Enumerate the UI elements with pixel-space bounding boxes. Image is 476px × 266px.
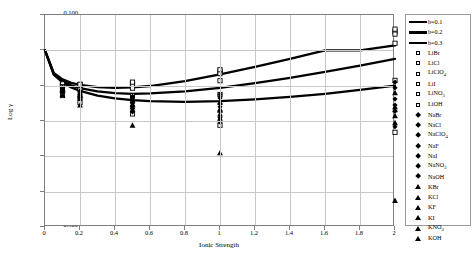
legend-line-swatch: [408, 31, 428, 33]
legend-item-label: KF: [428, 204, 436, 210]
series-LiBr: [60, 30, 397, 87]
legend-item-NaI[interactable]: NaI: [408, 151, 470, 161]
data-point: [393, 32, 397, 36]
legend-triangle-marker-icon: [408, 236, 428, 241]
legend-item-LiBr[interactable]: LiBr: [408, 48, 470, 58]
legend-item-label: NaI: [428, 153, 437, 159]
data-point: [393, 27, 397, 31]
legend-key-shape: [409, 42, 427, 44]
legend-key-shape: [415, 205, 421, 210]
legend-item-LiI[interactable]: LiI: [408, 79, 470, 89]
legend-item-label: KNO3: [428, 224, 444, 233]
legend-square-marker-icon: [408, 61, 428, 65]
legend-square-marker-icon: [408, 51, 428, 55]
legend-key-shape: [416, 72, 420, 76]
legend-key-shape: [415, 236, 421, 241]
x-tick-label: 1.8: [344, 229, 374, 236]
legend-item-label: NaCl: [428, 122, 441, 128]
series-KF: [60, 86, 398, 111]
legend-item-label: LiClO4: [428, 69, 446, 78]
x-tick-label: 0.6: [134, 229, 164, 236]
legend-item-label: LiCl: [428, 60, 439, 66]
legend-item-LiClO4[interactable]: LiClO4: [408, 68, 470, 78]
data-point: [392, 198, 398, 203]
legend-item-LiOH[interactable]: LiOH: [408, 99, 470, 109]
gridline-horizontal: [45, 156, 393, 157]
legend-key-shape: [415, 132, 421, 138]
legend-key-shape: [415, 226, 421, 231]
legend-item-NaBr[interactable]: NaBr: [408, 110, 470, 120]
gridline-horizontal: [45, 86, 393, 87]
series-LiClO: [60, 32, 397, 87]
legend-item-LiNO3[interactable]: LiNO3: [408, 89, 470, 99]
legend-item-NaNO3[interactable]: NaNO3: [408, 161, 470, 171]
legend-item-KBr[interactable]: KBr: [408, 182, 470, 192]
legend-item-KNO3[interactable]: KNO3: [408, 223, 470, 233]
legend-item-LiCl[interactable]: LiCl: [408, 58, 470, 68]
legend-item-label: LiI: [428, 81, 436, 87]
y-axis-title: Log γ: [6, 88, 14, 136]
data-point: [392, 113, 398, 118]
x-tick-label: 1: [204, 229, 234, 236]
legend-key-shape: [416, 103, 420, 107]
legend-item-NaF[interactable]: NaF: [408, 141, 470, 151]
gridline-vertical: [150, 15, 151, 225]
legend-item-label: b=0.1: [428, 19, 442, 25]
legend-item-KI[interactable]: KI: [408, 213, 470, 223]
chart-legend: b=0.1b=0.2b=0.3LiBrLiClLiClO4LiILiNO3LiO…: [405, 14, 471, 226]
x-tick-label: 1.2: [239, 229, 269, 236]
legend-key-shape: [416, 51, 420, 55]
legend-line-swatch: [408, 42, 428, 44]
legend-item-label: b=0.3: [428, 40, 442, 46]
gridline-horizontal: [45, 121, 393, 122]
legend-diamond-marker-icon: [408, 174, 428, 178]
legend-key-shape: [415, 173, 421, 179]
x-tick-label: 1.4: [274, 229, 304, 236]
legend-item-label: NaF: [428, 143, 439, 149]
legend-item-label: LiOH: [428, 101, 442, 107]
legend-diamond-marker-icon: [408, 144, 428, 148]
legend-key-shape: [415, 122, 421, 128]
legend-diamond-marker-icon: [408, 133, 428, 137]
legend-item-KOH[interactable]: KOH: [408, 233, 470, 243]
legend-key-shape: [409, 31, 427, 33]
legend-key-shape: [415, 215, 421, 220]
legend-item-KCl[interactable]: KCl: [408, 192, 470, 202]
legend-item-NaCl[interactable]: NaCl: [408, 120, 470, 130]
legend-item-label: LiBr: [428, 50, 440, 56]
legend-triangle-marker-icon: [408, 205, 428, 210]
legend-item-NaOH[interactable]: NaOH: [408, 171, 470, 181]
legend-item-label: LiNO3: [428, 90, 445, 99]
legend-item-label: b=0.2: [428, 29, 442, 35]
data-point: [130, 122, 136, 127]
legend-item-b01[interactable]: b=0.1: [408, 17, 470, 27]
legend-line-swatch: [408, 21, 428, 23]
x-tick-label: 0: [29, 229, 59, 236]
legend-item-b03[interactable]: b=0.3: [408, 38, 470, 48]
legend-item-label: NaClO4: [428, 131, 448, 140]
legend-item-label: KOH: [428, 235, 441, 241]
legend-diamond-marker-icon: [408, 113, 428, 117]
x-tick-label: 0.4: [99, 229, 129, 236]
data-point: [393, 130, 397, 134]
series-KNO: [60, 92, 398, 203]
x-axis-title: Ionic Strength: [44, 241, 394, 249]
legend-item-b02[interactable]: b=0.2: [408, 27, 470, 37]
legend-square-marker-icon: [408, 103, 428, 107]
legend-triangle-marker-icon: [408, 195, 428, 200]
gridline-vertical: [325, 15, 326, 225]
legend-item-label: KBr: [428, 184, 439, 190]
legend-key-shape: [409, 21, 427, 23]
legend-square-marker-icon: [408, 92, 428, 96]
gridline-vertical: [290, 15, 291, 225]
gridline-vertical: [220, 15, 221, 225]
data-point: [393, 41, 397, 45]
legend-item-NaClO4[interactable]: NaClO4: [408, 130, 470, 140]
legend-item-KF[interactable]: KF: [408, 202, 470, 212]
x-tick-label: 2: [379, 229, 409, 236]
legend-item-label: KI: [428, 215, 435, 221]
legend-key-shape: [415, 143, 421, 149]
legend-square-marker-icon: [408, 72, 428, 76]
legend-key-shape: [416, 61, 420, 65]
legend-key-shape: [416, 92, 420, 96]
